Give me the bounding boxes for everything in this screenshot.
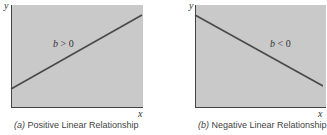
slope-annotation: b < 0 [270, 38, 291, 49]
x-axis-label: x [318, 108, 322, 119]
chart-caption: (a) Positive Linear Relationship [14, 120, 139, 130]
positive-regression-line [0, 0, 160, 135]
slope-annotation: b > 0 [53, 38, 74, 49]
chart-panel-positive: y b > 0 x (a) Positive Linear Relationsh… [0, 0, 160, 135]
chart-panel-negative: y b < 0 x (b) Negative Linear Relationsh… [160, 0, 323, 135]
chart-caption: (b) Negative Linear Relationship [198, 120, 327, 130]
x-axis-label: x [138, 108, 142, 119]
negative-regression-line [160, 0, 323, 135]
